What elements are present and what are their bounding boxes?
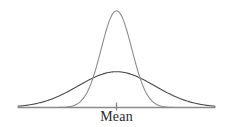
wide-distribution-curve xyxy=(18,72,215,107)
mean-axis-label: Mean xyxy=(0,109,233,124)
narrow-distribution-curve xyxy=(18,11,215,108)
curves-group xyxy=(18,11,215,108)
normal-curves-figure: Mean xyxy=(0,0,233,127)
distribution-plot xyxy=(0,0,233,127)
